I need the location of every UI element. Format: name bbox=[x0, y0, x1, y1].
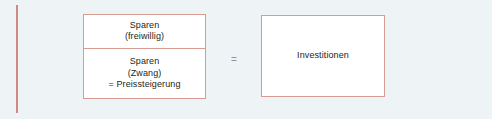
left-margin-rule bbox=[16, 5, 18, 113]
voluntary-savings-cell: Sparen (freiwillig) bbox=[84, 15, 205, 48]
equals-sign: = bbox=[226, 52, 242, 68]
savings-equals-investment-diagram: Sparen (freiwillig) Sparen (Zwang) = Pre… bbox=[0, 0, 492, 119]
forced-savings-line-3: = Preissteigerung bbox=[109, 79, 181, 91]
investment-box-label: Investitionen bbox=[297, 50, 349, 62]
voluntary-savings-line-2: (freiwillig) bbox=[125, 31, 164, 43]
voluntary-savings-line-1: Sparen bbox=[130, 20, 160, 32]
savings-box: Sparen (freiwillig) Sparen (Zwang) = Pre… bbox=[83, 14, 206, 99]
forced-savings-cell: Sparen (Zwang) = Preissteigerung bbox=[84, 48, 205, 98]
investment-box: Investitionen bbox=[261, 15, 385, 97]
forced-savings-line-2: (Zwang) bbox=[128, 68, 162, 80]
forced-savings-line-1: Sparen bbox=[130, 56, 160, 68]
